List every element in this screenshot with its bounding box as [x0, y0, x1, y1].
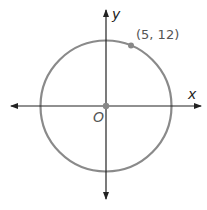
- x-axis-label: x: [188, 86, 196, 102]
- origin-label: O: [93, 109, 104, 125]
- point-label: (5, 12): [136, 27, 179, 42]
- y-axis-label: y: [112, 6, 120, 22]
- point-5-12: [128, 43, 134, 49]
